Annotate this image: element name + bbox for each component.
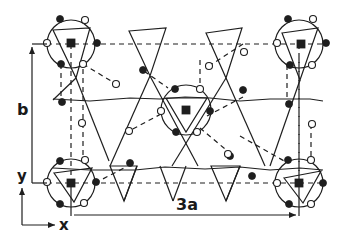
x-axis-label: x (59, 216, 69, 234)
open-atom (82, 17, 89, 24)
open-atom (44, 179, 51, 186)
open-atom (113, 81, 120, 88)
filled-atom (57, 201, 64, 208)
filled-atom (285, 16, 292, 23)
cation-square (297, 40, 305, 48)
open-atom (126, 128, 133, 135)
open-atom (308, 157, 315, 164)
edge (160, 166, 173, 201)
open-atom (81, 200, 88, 207)
open-atom (44, 40, 51, 47)
a-dimension: 3a (71, 186, 299, 216)
open-atom (80, 61, 87, 68)
open-atom (274, 40, 281, 47)
open-atom (309, 121, 316, 128)
filled-atom (207, 108, 214, 115)
open-atom (82, 157, 89, 164)
open-atom (206, 63, 213, 70)
filled-atom (173, 129, 180, 136)
edge (110, 76, 150, 166)
crystal-structure-diagram: b 3a y x (0, 0, 349, 241)
edge (124, 166, 137, 201)
filled-atom (57, 16, 64, 23)
cation-square (295, 179, 303, 187)
bond (144, 71, 168, 88)
filled-atom (285, 157, 292, 164)
open-atom (308, 201, 315, 208)
bond (200, 128, 231, 154)
cation-squares (67, 39, 305, 187)
filled-atom (286, 101, 293, 108)
filled-atom (57, 158, 64, 165)
filled-atom (58, 61, 65, 68)
bond (83, 64, 116, 84)
b-dimension: b (17, 44, 47, 183)
open-atom (310, 16, 317, 23)
open-atom (274, 180, 281, 187)
crossing-lines (53, 76, 300, 201)
filled-atom (172, 86, 179, 93)
triangle-tr (282, 28, 318, 80)
filled-atom (59, 99, 66, 106)
open-atom (197, 86, 204, 93)
bond (129, 114, 161, 131)
open-atom (309, 62, 316, 69)
filled-atom (93, 179, 100, 186)
b-label: b (17, 100, 28, 119)
open-atom (158, 108, 165, 115)
open-atom (194, 129, 201, 136)
triangle-upper-1 (129, 28, 166, 76)
filled-atom (323, 40, 330, 47)
edge (53, 78, 76, 100)
filled-atom (94, 40, 101, 47)
a-label: 3a (176, 195, 198, 214)
cation-square (182, 106, 190, 114)
filled-atom (286, 201, 293, 208)
triangle-upper-2 (206, 28, 242, 78)
open-atom (241, 49, 248, 56)
cation-square (67, 39, 75, 47)
y-axis-label: y (17, 167, 27, 185)
bond (209, 44, 243, 66)
chain-line-lower (53, 167, 323, 170)
filled-atom (140, 67, 147, 74)
filled-atom (240, 87, 247, 94)
open-atom (225, 151, 232, 158)
filled-atom (287, 62, 294, 69)
filled-atom (320, 180, 327, 187)
filled-atom (127, 160, 134, 167)
filled-atom (249, 173, 256, 180)
triangle-center (166, 98, 207, 132)
open-atom (79, 120, 86, 127)
edge (270, 80, 300, 166)
cation-square (67, 179, 75, 187)
triangle-lower-2 (211, 166, 240, 201)
